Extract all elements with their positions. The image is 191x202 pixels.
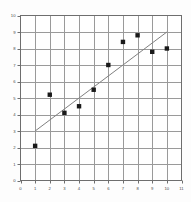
data-point-marker: [77, 104, 81, 108]
x-tick-label: 11: [179, 186, 184, 191]
data-point-marker: [91, 88, 95, 92]
data-point-marker: [62, 111, 66, 115]
x-tick-label: 10: [165, 186, 170, 191]
data-point-marker: [33, 144, 37, 148]
data-point-marker: [48, 93, 52, 97]
data-point-marker: [150, 50, 154, 54]
chart-canvas: 01234567891011 012345678910: [0, 0, 191, 202]
data-point-marker: [165, 46, 169, 50]
data-point-marker: [106, 63, 110, 67]
y-tick-label: 10: [11, 13, 16, 18]
scatter-plot-figure: 01234567891011 012345678910: [0, 0, 191, 202]
data-point-marker: [121, 40, 125, 44]
data-point-marker: [135, 33, 139, 37]
